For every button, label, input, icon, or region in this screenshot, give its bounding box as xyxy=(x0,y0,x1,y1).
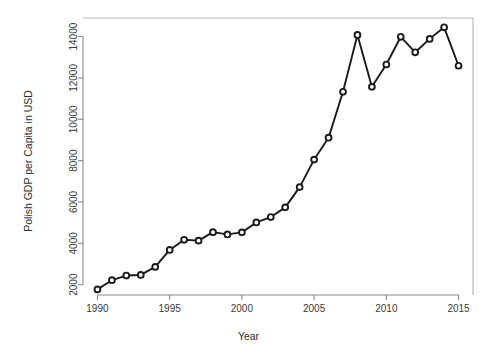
y-tick-label: 14000 xyxy=(68,22,79,50)
y-tick-label: 2000 xyxy=(68,273,79,296)
data-point xyxy=(152,264,158,270)
data-point xyxy=(340,89,346,95)
data-point xyxy=(398,34,404,40)
data-point xyxy=(441,24,447,30)
data-point xyxy=(225,232,231,238)
data-point xyxy=(95,287,101,293)
data-point xyxy=(355,32,361,38)
y-tick-label: 10000 xyxy=(68,105,79,133)
data-point xyxy=(138,272,144,278)
data-point xyxy=(412,49,418,55)
data-point xyxy=(456,63,462,69)
x-tick-label: 2015 xyxy=(447,303,470,314)
series-line xyxy=(97,27,458,289)
plot-frame xyxy=(83,18,473,295)
data-point xyxy=(239,229,245,235)
data-point xyxy=(181,237,187,243)
x-tick-label: 2005 xyxy=(303,303,326,314)
y-tick-label: 4000 xyxy=(68,232,79,255)
data-point xyxy=(427,36,433,42)
x-tick-label: 2010 xyxy=(375,303,398,314)
y-tick-label: 6000 xyxy=(68,190,79,213)
data-point xyxy=(311,157,317,163)
data-point xyxy=(282,204,288,210)
x-tick-label: 1990 xyxy=(86,303,109,314)
x-tick-label: 2000 xyxy=(231,303,254,314)
data-point xyxy=(196,238,202,244)
data-point xyxy=(210,229,216,235)
x-tick-label: 1995 xyxy=(159,303,182,314)
line-chart-plot: 2000400060008000100001200014000199019952… xyxy=(0,0,497,350)
data-point xyxy=(123,273,129,279)
data-point xyxy=(297,184,303,190)
x-axis-title: Year xyxy=(0,330,497,342)
data-point xyxy=(253,220,259,226)
data-point xyxy=(326,135,332,141)
data-point xyxy=(109,277,115,283)
y-tick-label: 8000 xyxy=(68,149,79,172)
data-point xyxy=(167,247,173,253)
data-point xyxy=(369,84,375,90)
chart-container: 2000400060008000100001200014000199019952… xyxy=(0,0,497,350)
data-point xyxy=(383,62,389,68)
y-axis-title: Polish GDP per Capita in USD xyxy=(22,71,34,251)
y-tick-label: 12000 xyxy=(68,64,79,92)
data-point xyxy=(268,214,274,220)
